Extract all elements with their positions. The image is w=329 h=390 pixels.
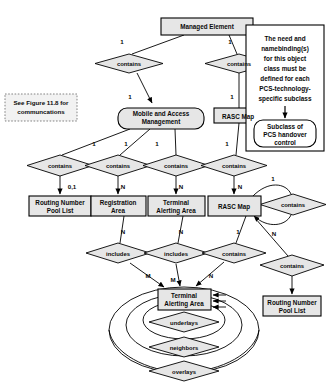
- cardinality-card_n_selfdn: N: [272, 230, 277, 237]
- entity-label-routing_pool_right-line1: Routing Number: [267, 299, 317, 307]
- cardinality-card_1_mam_c: 1: [155, 140, 159, 147]
- relationship-label-rel_me_mam: contains: [117, 61, 142, 67]
- edge-rascmap-to-contains-rascmid: [236, 123, 239, 155]
- relationship-label-rel_reg_inc: includes: [106, 251, 131, 257]
- note-line-1: The need and: [264, 35, 305, 42]
- entity-label-terminal_alerting_mid-line1: Terminal: [163, 199, 189, 206]
- relationship-label-rel_overlays: overlays: [172, 369, 197, 375]
- relationship-label-rel_rpl: contains: [48, 163, 73, 169]
- relationship-label-rel_taa: contains: [164, 163, 189, 169]
- edge-mam-to-contains-taa: [175, 129, 176, 155]
- cardinality-card_n_reg_dn: N: [121, 228, 126, 235]
- relationship-label-rel_me_rasc: contains: [227, 61, 252, 67]
- cardinality-card_1_rasc_dn: 1: [225, 140, 229, 147]
- subclass-line-2: PCS handover: [263, 131, 307, 138]
- cardinality-card_n_taa_dn: N: [179, 228, 184, 235]
- entity-label-registration_area-line2: Area: [111, 207, 125, 214]
- entity-label-rasc_map_mid: RASC Map: [218, 203, 250, 211]
- note-line-7: specific subclass: [259, 95, 312, 103]
- cardinality-card_1_me_left: 1: [120, 38, 124, 45]
- relationship-label-rel_rasc_self: contains: [281, 202, 306, 208]
- relationship-label-rel_underlays: underlays: [170, 320, 199, 326]
- cardinality-card_m_taa: M: [170, 276, 175, 283]
- entity-label-terminal_alerting_mid-line2: Alerting Area: [156, 207, 196, 215]
- figure-reference-line-2: communcations: [17, 108, 65, 115]
- note-line-4: class must be: [264, 65, 307, 72]
- subclass-line-1: Subclass of: [267, 123, 304, 130]
- cardinality-card_n_rascmid: N: [238, 183, 243, 190]
- cardinality-card_1_mam: 1: [128, 93, 132, 100]
- entity-label-routing_pool_right-line2: Pool List: [279, 307, 306, 314]
- entity-label-terminal_alerting_bot-line1: Terminal: [171, 292, 197, 299]
- edge-rascmap-selfloop-top: [252, 185, 291, 197]
- edge-contains-to-mam: [137, 73, 152, 103]
- cardinality-card_1_mam_a: 1: [92, 140, 96, 147]
- note-line-6: PCS-technology-: [259, 85, 310, 93]
- cardinality-card_n_reg: N: [121, 183, 126, 190]
- edge-includes-to-terminal-bottom-b: [176, 264, 180, 286]
- cardinality-card_n_rasc_bot: N: [209, 272, 214, 279]
- cardinality-card_1_selfup: 1: [271, 175, 275, 182]
- cardinality-card_01_rpl: 0,1: [68, 183, 77, 190]
- cardinality-card_1_rasc_dn2: 1: [236, 228, 240, 235]
- edge-rascmap-to-contains-right: [255, 218, 288, 256]
- entity-label-terminal_alerting_bot-line2: Alerting Area: [164, 300, 204, 308]
- relationship-label-rel_rpl2: contains: [280, 263, 305, 269]
- relationship-label-rel_rascmid: contains: [222, 163, 247, 169]
- er-diagram-canvas: Managed Element Mobile and Access Manage…: [0, 0, 329, 390]
- relationship-label-rel_neighbors: neighbors: [170, 345, 199, 351]
- entity-label-mobile_access_mgmt-line1: Mobile and Access: [133, 110, 190, 117]
- subclass-line-3: control: [274, 139, 296, 146]
- note-line-2: namebinding(s): [261, 45, 309, 53]
- edge-mam-to-contains-rpl: [62, 129, 130, 155]
- cardinality-card_1_me_right: 1: [228, 38, 232, 45]
- edge-me-to-contains-left: [132, 35, 184, 54]
- cardinality-card_n_taa: N: [179, 183, 184, 190]
- entity-label-mobile_access_mgmt-line2: Management: [142, 118, 181, 126]
- figure-reference-line-1: See Figure 11.8 for: [13, 99, 69, 106]
- entity-label-managed_element: Managed Element: [180, 23, 234, 31]
- cardinality-card_m_reg: M: [145, 272, 150, 279]
- loop-return-arrows: [213, 295, 226, 307]
- note-line-5: defined for each: [260, 75, 309, 82]
- entity-label-routing_pool_left-line2: Pool List: [47, 207, 74, 214]
- entity-label-registration_area-line1: Registration: [100, 199, 137, 207]
- relationship-label-rel_taa_inc: includes: [164, 251, 189, 257]
- cardinality-card_1_rascmaptop: 1: [230, 93, 234, 100]
- note-line-3: for this object: [264, 55, 307, 63]
- cardinality-card_1_mam_b: 1: [124, 140, 128, 147]
- entity-label-rasc_map_top: RASC Map: [222, 113, 254, 121]
- entity-label-routing_pool_left-line1: Routing Number: [35, 199, 85, 207]
- relationship-label-rel_reg: contains: [106, 163, 131, 169]
- relationship-label-rel_rasc_cont: contains: [222, 251, 247, 257]
